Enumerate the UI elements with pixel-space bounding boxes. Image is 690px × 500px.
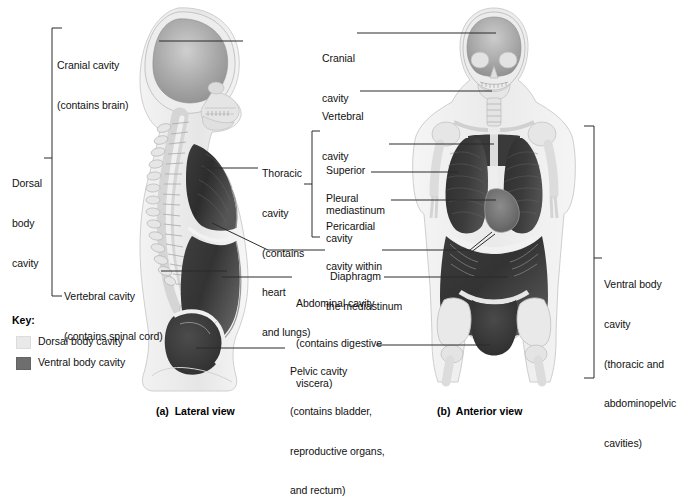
label-ventral-line5: cavities) [604,437,676,450]
anterior-pelvic-cavity [470,300,518,356]
label-cranial-lateral-line2: (contains brain) [57,99,129,112]
label-cranial-anterior-line1: Cranial [322,52,355,65]
label-ventral-line4: abdominopelvic [604,397,676,410]
label-ventral-line1: Ventral body [604,278,676,291]
label-ventral-line3: (thoracic and [604,358,676,371]
key-title: Key: [12,314,35,326]
label-pelvic-line4: and rectum) [290,484,385,497]
caption-anterior-view: (b) Anterior view [437,405,522,417]
anterior-cervical-spine [487,98,501,126]
label-pelvic-line1: Pelvic cavity [290,365,385,378]
label-cranial-lateral-line1: Cranial cavity [57,59,129,72]
label-vertebral-cavity-anterior: Vertebral cavity [322,84,364,176]
label-dorsal-line2: body [12,217,52,230]
key-swatch-ventral-body-cavity [16,357,31,370]
label-ventral-line2: cavity [604,318,676,331]
label-pericardial-line1: Pericardial [326,220,402,233]
label-vertebral-lateral-line1: Vertebral cavity [64,290,163,303]
bracket-ventral-body-cavity [584,126,602,378]
lateral-pelvic-cavity [165,311,224,375]
label-pelvic-line2: (contains bladder, [290,405,385,418]
caption-lateral-view: (a) Lateral view [156,405,235,417]
label-vertebral-anterior-line2: cavity [322,150,364,163]
label-dorsal-line3: cavity [12,257,52,270]
label-dorsal-body-cavity: Dorsal body cavity [12,151,52,283]
label-vertebral-anterior-line1: Vertebral [322,110,364,123]
key-label-ventral-body-cavity: Ventral body cavity [38,356,125,369]
label-ventral-body-cavity: Ventral body cavity (thoracic and abdomi… [604,252,676,463]
anterior-view-figure [404,4,584,394]
label-thoracic-line2: cavity [262,207,311,220]
label-dorsal-line1: Dorsal [12,177,52,190]
key-label-dorsal-body-cavity: Dorsal body cavity [38,335,123,348]
label-abdominal-line1: Abdominal cavity [296,297,382,310]
label-pelvic-line3: reproductive organs, [290,445,385,458]
label-pelvic-cavity: Pelvic cavity (contains bladder, reprodu… [290,339,385,500]
label-thoracic-line1: Thoracic [262,167,311,180]
label-thoracic-line3: (contains [262,247,311,260]
key-swatch-dorsal-body-cavity [16,336,31,349]
label-cranial-cavity-lateral: Cranial cavity (contains brain) [57,33,129,125]
